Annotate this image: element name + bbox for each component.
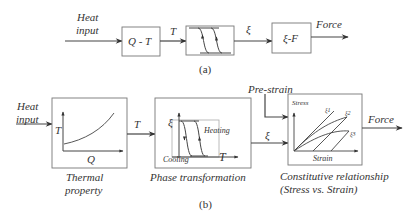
phase-x-axis-label: T bbox=[219, 151, 226, 163]
heat-input-label-b-line2: input bbox=[16, 114, 39, 125]
thermal-x-axis-label: Q bbox=[87, 154, 95, 165]
thermal-caption-line1: Thermal bbox=[66, 172, 103, 183]
heat-input-label-line1: Heat bbox=[77, 12, 98, 23]
t-signal-label: T bbox=[170, 26, 176, 37]
force-output-label-b: Force bbox=[368, 114, 394, 125]
heating-label: Heating bbox=[204, 127, 230, 135]
heat-input-label-line2: input bbox=[76, 25, 99, 36]
xi-f-block-label: ξ-F bbox=[283, 33, 298, 44]
phase-caption: Phase transformation bbox=[150, 172, 246, 183]
prestrain-label: Pre-strain bbox=[248, 84, 293, 95]
panel-a bbox=[65, 23, 348, 56]
force-output-label: Force bbox=[316, 19, 342, 30]
thermal-y-axis-label: T bbox=[55, 125, 61, 136]
cooling-label: Cooling bbox=[163, 156, 189, 164]
prestrain-arrow bbox=[265, 94, 288, 117]
constitutive-caption-line1: Constitutive relationship bbox=[280, 171, 389, 182]
xi1-label: ξ1 bbox=[325, 107, 331, 113]
strain-axis-label: Strain bbox=[313, 155, 333, 163]
panel-a-caption: (a) bbox=[199, 64, 211, 75]
constitutive-caption-line2: (Stress vs. Strain) bbox=[280, 184, 358, 195]
t-signal-label-b: T bbox=[134, 119, 140, 130]
stress-axis-label: Stress bbox=[292, 100, 308, 107]
xi2-label: ξ2 bbox=[345, 110, 351, 116]
xi-signal-label: ξ bbox=[246, 24, 251, 35]
phase-y-axis-label: ξ bbox=[168, 117, 173, 128]
panel-b-caption: (b) bbox=[199, 199, 212, 210]
q-t-block-label: Q - T bbox=[128, 36, 151, 47]
hysteresis-block bbox=[186, 26, 234, 55]
heat-input-label-b-line1: Heat bbox=[17, 101, 38, 112]
thermal-caption-line2: property bbox=[65, 185, 102, 196]
xi3-label: ξ3 bbox=[350, 131, 356, 137]
xi-signal-label-b: ξ bbox=[265, 130, 270, 141]
